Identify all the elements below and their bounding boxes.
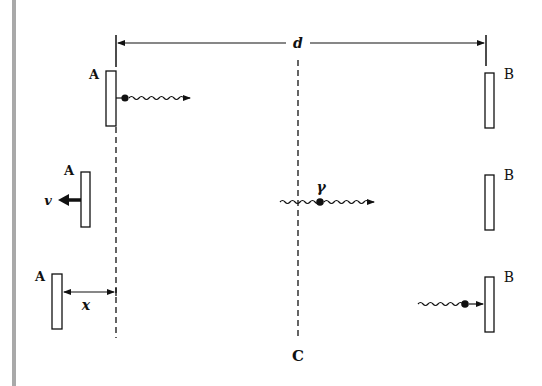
mirror-a: [81, 172, 90, 227]
row-1: A B: [88, 66, 514, 128]
distance-dimension: d: [116, 35, 486, 67]
photon-wave: [129, 97, 184, 100]
photon-wave: [418, 303, 463, 306]
mirror-b: [485, 73, 494, 128]
mirror-b-label: B: [504, 269, 514, 285]
mirror-a: [106, 71, 116, 126]
photon-dot: [121, 94, 128, 101]
mirror-b-label: B: [504, 66, 514, 82]
row-2: A v γ B: [44, 163, 514, 230]
distance-label: d: [293, 35, 303, 51]
photon-dot: [316, 198, 324, 206]
mirror-b: [485, 175, 494, 230]
photon-wave: [324, 201, 369, 204]
photon-dot: [461, 300, 469, 308]
mirror-a-label: A: [63, 163, 75, 178]
mirror-a-label: A: [88, 67, 100, 82]
velocity-label: v: [44, 193, 52, 208]
center-label: C: [292, 347, 304, 365]
mirror-b-label: B: [504, 167, 514, 183]
mirror-b: [485, 277, 494, 332]
mirror-a-label: A: [34, 269, 46, 284]
velocity-arrow-icon: [58, 194, 81, 206]
photon-wave: [280, 201, 320, 204]
photon-label: γ: [316, 179, 326, 195]
displacement-label: x: [81, 297, 91, 313]
mirror-a: [52, 274, 62, 329]
displacement-dimension: [64, 288, 116, 296]
row-3: A x B: [34, 269, 514, 332]
light-clock-diagram: d C A B A v γ B A: [0, 0, 542, 386]
